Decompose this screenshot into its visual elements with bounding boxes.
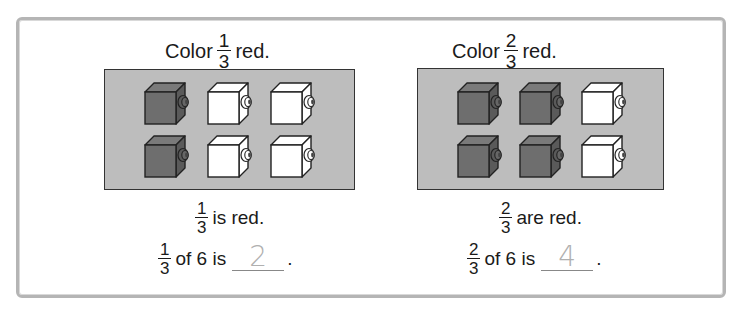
- statement-text: are red.: [516, 207, 581, 229]
- title-fraction: 1 3: [217, 31, 232, 71]
- cube-red-icon[interactable]: [144, 135, 192, 179]
- fraction-denominator: 3: [197, 218, 206, 236]
- question-period: .: [287, 248, 292, 270]
- cube-red-icon[interactable]: [457, 135, 505, 179]
- statement-fraction: 1 3: [195, 200, 208, 236]
- question-text: of 6 is: [175, 248, 226, 270]
- problem-1-title: Color 1 3 red.: [165, 31, 270, 71]
- title-suffix: red.: [522, 40, 556, 63]
- title-fraction: 2 3: [504, 31, 519, 71]
- cube-white-icon[interactable]: [207, 135, 255, 179]
- fraction-numerator: 1: [195, 200, 208, 218]
- cube-red-icon[interactable]: [457, 82, 505, 126]
- statement-fraction: 2 3: [499, 200, 512, 236]
- fraction-numerator: 1: [158, 241, 171, 259]
- fraction-numerator: 2: [467, 241, 480, 259]
- fraction-denominator: 3: [219, 51, 230, 71]
- fraction-denominator: 3: [501, 218, 510, 236]
- problem-2-question: 2 3 of 6 is 4 .: [463, 241, 601, 277]
- cube-red-icon[interactable]: [519, 82, 567, 126]
- problem-1-statement: 1 3 is red.: [191, 200, 264, 236]
- cube-red-icon[interactable]: [144, 82, 192, 126]
- question-fraction: 1 3: [158, 241, 171, 277]
- fraction-denominator: 3: [469, 259, 478, 277]
- cube-white-icon[interactable]: [581, 82, 629, 126]
- question-text: of 6 is: [484, 248, 535, 270]
- problem-2-title: Color 2 3 red.: [452, 31, 557, 71]
- problem-1-cube-panel: [104, 69, 355, 190]
- cube-white-icon[interactable]: [581, 135, 629, 179]
- problem-1-question: 1 3 of 6 is 2 .: [154, 241, 292, 277]
- cube-red-icon[interactable]: [519, 135, 567, 179]
- cube-white-icon[interactable]: [270, 135, 318, 179]
- answer-value: 4: [541, 243, 593, 271]
- fraction-numerator: 2: [504, 31, 519, 51]
- cube-white-icon[interactable]: [207, 82, 255, 126]
- answer-blank[interactable]: 2: [232, 248, 284, 271]
- title-suffix: red.: [235, 40, 269, 63]
- question-period: .: [596, 248, 601, 270]
- question-fraction: 2 3: [467, 241, 480, 277]
- title-prefix: Color: [452, 40, 500, 63]
- cube-white-icon[interactable]: [270, 82, 318, 126]
- fraction-numerator: 1: [217, 31, 232, 51]
- fraction-numerator: 2: [499, 200, 512, 218]
- answer-blank[interactable]: 4: [541, 248, 593, 271]
- title-prefix: Color: [165, 40, 213, 63]
- answer-value: 2: [232, 243, 284, 271]
- problem-2-cube-panel: [417, 68, 664, 190]
- statement-text: is red.: [212, 207, 264, 229]
- problem-2-statement: 2 3 are red.: [495, 200, 582, 236]
- fraction-denominator: 3: [160, 259, 169, 277]
